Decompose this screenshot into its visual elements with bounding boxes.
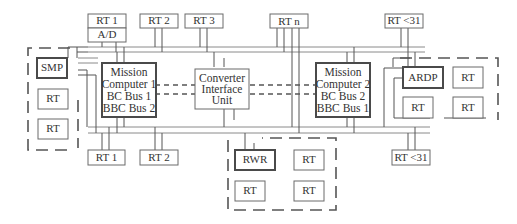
svg-text:RT: RT xyxy=(46,122,60,134)
ad-label: A/D xyxy=(98,28,117,40)
svg-text:BBC Bus 1: BBC Bus 1 xyxy=(317,102,370,114)
svg-text:RT: RT xyxy=(46,92,60,104)
ardp-rt-2[interactable]: RT xyxy=(403,97,433,118)
svg-text:RT: RT xyxy=(461,71,475,83)
bottom-rt-1[interactable]: RT 1 xyxy=(88,150,125,165)
smp-wires xyxy=(68,47,96,133)
smp-rt-1[interactable]: RT xyxy=(38,89,68,109)
svg-text:Mission: Mission xyxy=(110,66,147,78)
svg-text:SMP: SMP xyxy=(41,61,63,73)
rt-label: RT n xyxy=(278,14,300,26)
bottom-rt-2[interactable]: RT 2 xyxy=(140,150,178,165)
svg-text:RT: RT xyxy=(411,101,425,113)
ardp-rt-1[interactable]: RT xyxy=(453,67,483,88)
svg-text:RT 1: RT 1 xyxy=(96,151,117,163)
svg-text:BC Bus 2: BC Bus 2 xyxy=(321,90,366,102)
rt-label: RT 3 xyxy=(193,14,215,26)
converter-interface-unit[interactable]: Converter Interface Unit xyxy=(195,69,249,109)
svg-text:RT: RT xyxy=(461,101,475,113)
svg-text:Mission: Mission xyxy=(324,66,361,78)
svg-text:RT 2: RT 2 xyxy=(148,151,169,163)
bottom-rt-31[interactable]: RT <31 xyxy=(392,150,430,165)
top-rt-1[interactable]: RT 1 A/D xyxy=(88,14,126,42)
svg-text:Unit: Unit xyxy=(212,94,233,106)
svg-text:BC Bus 1: BC Bus 1 xyxy=(107,90,152,102)
rwr-box[interactable]: RWR xyxy=(235,150,275,170)
ardp-box[interactable]: ARDP xyxy=(403,67,443,88)
svg-text:RT: RT xyxy=(302,184,316,196)
rt-label: RT 1 xyxy=(96,14,117,26)
top-rt-31[interactable]: RT <31 xyxy=(385,14,423,28)
mission-computer-1[interactable]: Mission Computer 1 BC Bus 1 BBC Bus 2 xyxy=(102,63,157,117)
svg-text:RT <31: RT <31 xyxy=(394,151,427,163)
svg-text:ARDP: ARDP xyxy=(408,71,437,83)
smp-rt-2[interactable]: RT xyxy=(38,119,68,139)
ardp-rt-3[interactable]: RT xyxy=(453,97,483,118)
bottom-stubs xyxy=(102,127,415,150)
rwr-rt-2[interactable]: RT xyxy=(235,181,265,201)
avionics-bus-diagram: RT 1 A/D RT 2 RT 3 RT n RT <31 SMP RT RT… xyxy=(0,0,517,224)
svg-text:RT: RT xyxy=(302,153,316,165)
smp-box[interactable]: SMP xyxy=(37,58,67,78)
svg-text:RWR: RWR xyxy=(243,153,268,165)
top-rt-n[interactable]: RT n xyxy=(270,14,308,28)
rt-label: RT <31 xyxy=(387,14,420,26)
rwr-rt-1[interactable]: RT xyxy=(294,150,324,170)
top-rt-3[interactable]: RT 3 xyxy=(185,14,223,28)
svg-text:RT: RT xyxy=(243,184,257,196)
rwr-rt-3[interactable]: RT xyxy=(294,181,324,201)
top-rt-2[interactable]: RT 2 xyxy=(140,14,178,28)
mission-computer-2[interactable]: Mission Computer 2 BC Bus 2 BBC Bus 1 xyxy=(316,63,371,117)
svg-text:BBC Bus 2: BBC Bus 2 xyxy=(103,102,156,114)
rt-label: RT 2 xyxy=(148,14,169,26)
